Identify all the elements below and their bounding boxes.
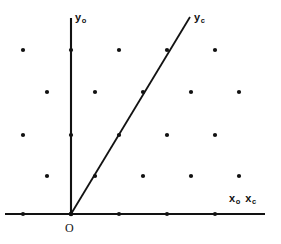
y-transformed-axis-label: yc [194,12,205,23]
transformed-axis-group [71,17,190,214]
lattice-point [45,90,49,94]
x-transformed-base: x [245,192,251,204]
y-original-axis-label: yo [75,12,86,23]
lattice-point [141,174,145,178]
y-original-subscript: o [82,16,87,25]
figure-canvas [0,0,281,244]
lattice-point-group [21,48,241,216]
lattice-point [21,48,25,52]
x-original-subscript: o [236,197,241,206]
lattice-point [237,90,241,94]
x-transformed-subscript: c [252,197,256,206]
lattice-point [237,174,241,178]
origin-marker-group [69,212,73,216]
y-axis-transformed [71,17,190,214]
x-original-base: x [229,192,235,204]
lattice-point [189,90,193,94]
y-transformed-subscript: c [201,16,205,25]
origin-point [69,212,73,216]
y-transformed-base: y [194,11,200,23]
lattice-point [93,90,97,94]
x-axis-label-pair: xoxc [229,193,256,204]
y-original-base: y [75,11,81,23]
lattice-axes-figure: yo yc xoxc O [0,0,281,244]
lattice-point [189,174,193,178]
lattice-point [165,133,169,137]
origin-label: O [65,222,74,234]
lattice-point [45,174,49,178]
lattice-point [21,133,25,137]
lattice-point [213,133,217,137]
lattice-point [213,48,217,52]
axis-line-group [5,18,265,214]
lattice-point [117,48,121,52]
